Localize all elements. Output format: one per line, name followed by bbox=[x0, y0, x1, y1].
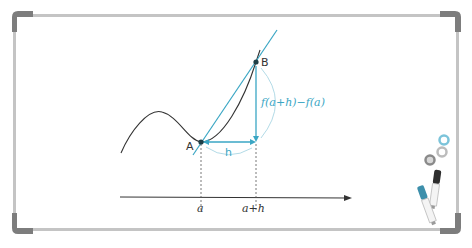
x-axis bbox=[120, 195, 352, 201]
magnet-grey-icon bbox=[438, 148, 447, 157]
point-a bbox=[198, 139, 203, 144]
magnets bbox=[426, 136, 449, 165]
h-arrow-tail-icon bbox=[203, 139, 209, 145]
axis-arrow-icon bbox=[344, 195, 352, 201]
tick-label-a: a bbox=[197, 202, 204, 215]
rise-label: f(a+h)−f(a) bbox=[260, 96, 325, 109]
secant-line bbox=[193, 30, 277, 155]
frame-corner-bottom-right bbox=[440, 213, 461, 234]
whiteboard-diagram: A B h f(a+h)−f(a) a a+h bbox=[0, 0, 472, 248]
frame-corner-top-left bbox=[12, 11, 33, 32]
point-b bbox=[253, 59, 258, 64]
magnet-light-blue-icon bbox=[440, 136, 449, 145]
function-curve bbox=[121, 50, 260, 153]
magnet-dark-icon bbox=[426, 156, 435, 165]
h-label: h bbox=[225, 146, 232, 159]
frame-corner-bottom-left bbox=[12, 213, 33, 234]
whiteboard-frame bbox=[12, 11, 461, 234]
frame-corner-top-right bbox=[440, 11, 461, 32]
marker-black bbox=[429, 170, 441, 210]
point-b-label: B bbox=[261, 56, 269, 69]
tick-label-a-plus-h: a+h bbox=[242, 202, 265, 215]
point-a-label: A bbox=[186, 140, 194, 153]
